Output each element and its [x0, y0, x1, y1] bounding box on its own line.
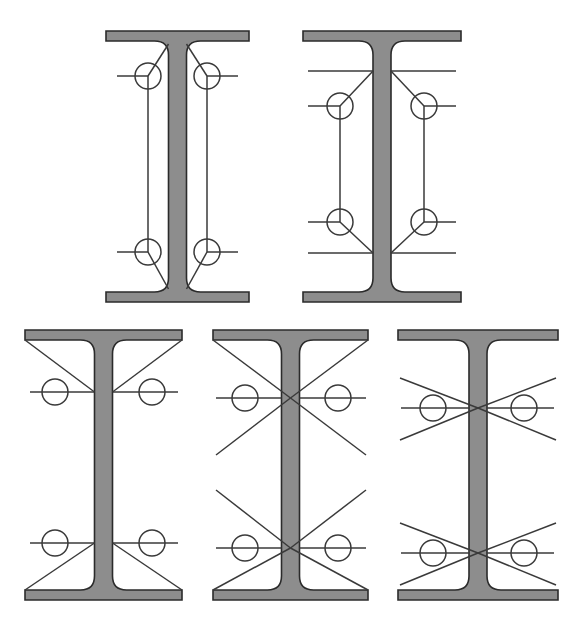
- weld-lower-left-diagonal: [148, 252, 169, 289]
- weld-upper-left-diagonal: [340, 71, 373, 106]
- bottom-left-beam-brace-bottom-left: [25, 543, 95, 590]
- bottom-center-beam-xbrace-u3: [216, 398, 291, 455]
- weld-lower-left: [308, 209, 373, 253]
- figures-layer: [25, 31, 558, 600]
- weld-upper-left: [117, 44, 169, 89]
- bottom-right-beam-xfree-1-b: [478, 523, 556, 553]
- weld-lower-right-diagonal: [391, 222, 424, 253]
- top-right-beam: [303, 31, 461, 302]
- bottom-center-beam-xbrace-l3: [213, 548, 291, 590]
- bottom-left-beam-brace-top-right: [113, 340, 183, 392]
- weld-upper-right: [391, 71, 456, 119]
- bottom-center-beam-xbrace-l1: [216, 490, 291, 548]
- bottom-center-beam-xbrace-l4: [291, 548, 369, 590]
- weld-lower-left: [117, 239, 169, 289]
- bottom-left-beam-outline: [25, 330, 182, 600]
- bottom-right-beam-xfree-0-a: [400, 378, 478, 408]
- bottom-right-beam-xfree-1-c: [400, 553, 478, 585]
- weld-upper-right: [187, 44, 239, 89]
- weld-lower-right-diagonal: [187, 252, 208, 289]
- figure-sheet: [0, 0, 576, 637]
- bottom-right-beam-xfree-0-d: [478, 408, 556, 440]
- bottom-right-beam-xfree-0-c: [400, 408, 478, 440]
- weld-upper-right-diagonal: [391, 71, 424, 106]
- ibeam-detail-diagram: [0, 0, 576, 637]
- bottom-center-beam-xbrace-u1: [213, 340, 291, 398]
- weld-lower-right: [187, 239, 239, 289]
- bottom-right-beam-xfree-0-b: [478, 378, 556, 408]
- weld-upper-left: [308, 71, 373, 119]
- weld-upper-right-diagonal: [187, 44, 208, 76]
- bottom-left-beam: [25, 330, 182, 600]
- bottom-left-beam-brace-bottom-right: [113, 543, 183, 590]
- bottom-left-beam-brace-top-left: [25, 340, 95, 392]
- top-left-beam-outline: [106, 31, 249, 302]
- weld-lower-right: [391, 209, 456, 253]
- top-left-beam: [106, 31, 249, 302]
- bottom-center-beam: [213, 330, 368, 600]
- weld-upper-left-diagonal: [148, 44, 169, 76]
- bottom-right-beam-xfree-1-d: [478, 553, 556, 585]
- bottom-right-beam: [398, 330, 558, 600]
- bottom-right-beam-xfree-1-a: [400, 523, 478, 553]
- weld-lower-left-diagonal: [340, 222, 373, 253]
